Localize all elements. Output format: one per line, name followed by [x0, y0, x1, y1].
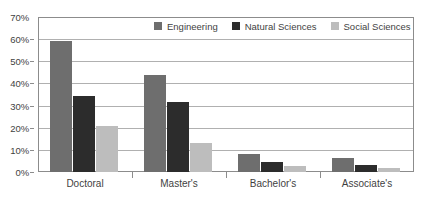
bar: [50, 41, 72, 172]
bar: [355, 165, 377, 172]
chart-legend: EngineeringNatural SciencesSocial Scienc…: [152, 18, 413, 34]
bar-group: [132, 17, 226, 172]
bar: [332, 158, 354, 172]
x-axis-labels: DoctoralMaster'sBachelor'sAssociate's: [38, 178, 414, 198]
legend-item: Natural Sciences: [232, 21, 317, 32]
y-tick-mark: [30, 61, 34, 62]
y-tick-mark: [30, 128, 34, 129]
x-axis-label: Doctoral: [66, 178, 103, 189]
legend-swatch-icon: [154, 22, 162, 30]
y-tick-label: 10%: [10, 144, 29, 155]
y-tick-label: 20%: [10, 122, 29, 133]
x-axis-label: Master's: [160, 178, 197, 189]
bar: [73, 96, 95, 172]
bar: [238, 154, 260, 172]
x-axis-label: Associate's: [342, 178, 392, 189]
bar: [284, 166, 306, 172]
legend-label: Natural Sciences: [245, 21, 317, 32]
x-axis-label: Bachelor's: [250, 178, 296, 189]
y-tick-mark: [30, 106, 34, 107]
y-tick-mark: [30, 150, 34, 151]
legend-label: Engineering: [167, 21, 218, 32]
y-tick-label: 40%: [10, 78, 29, 89]
y-tick-mark: [30, 172, 34, 173]
bar-group: [320, 17, 414, 172]
bar: [190, 143, 212, 172]
legend-label: Social Sciences: [344, 21, 411, 32]
bar-group: [38, 17, 132, 172]
y-tick-label: 60%: [10, 34, 29, 45]
legend-item: Engineering: [154, 21, 218, 32]
legend-item: Social Sciences: [331, 21, 411, 32]
y-tick-mark: [30, 39, 34, 40]
y-tick-label: 70%: [10, 12, 29, 23]
y-tick-label: 50%: [10, 56, 29, 67]
bar-group: [226, 17, 320, 172]
bar-groups: [38, 17, 414, 172]
y-tick-mark: [30, 83, 34, 84]
legend-swatch-icon: [232, 22, 240, 30]
bar: [96, 126, 118, 173]
bar: [378, 168, 400, 172]
y-tick-label: 0%: [15, 167, 29, 178]
legend-swatch-icon: [331, 22, 339, 30]
bar: [167, 102, 189, 172]
y-axis: 0%10%20%30%40%50%60%70%: [0, 17, 34, 172]
y-tick-label: 30%: [10, 100, 29, 111]
bar: [261, 162, 283, 172]
bar: [144, 75, 166, 172]
bar-chart: 0%10%20%30%40%50%60%70% DoctoralMaster's…: [0, 0, 431, 202]
